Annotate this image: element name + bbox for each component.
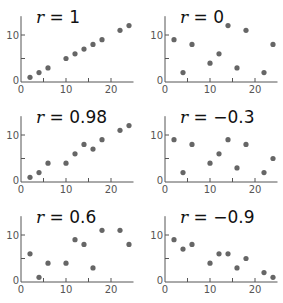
data-point — [90, 265, 95, 270]
y-tick-label: 10 — [6, 230, 19, 241]
correlation-scatter-grid: 01020010r = 101020010r = 001020010r = 0.… — [0, 0, 283, 303]
data-point — [225, 251, 230, 256]
data-point — [90, 147, 95, 152]
data-point — [270, 156, 275, 161]
y-tick-label: 0 — [13, 175, 19, 186]
data-point — [72, 51, 77, 56]
x-tick-label: 10 — [204, 284, 217, 295]
data-point — [63, 56, 68, 61]
y-tick-label: 10 — [6, 30, 19, 41]
correlation-label: r = 0.6 — [36, 207, 96, 227]
x-tick-label: 10 — [204, 84, 217, 95]
data-point — [234, 265, 239, 270]
data-point — [81, 242, 86, 247]
y-tick-label: 0 — [13, 75, 19, 86]
data-point — [234, 165, 239, 170]
data-point — [171, 37, 176, 42]
y-tick-label: 10 — [150, 130, 163, 141]
y-tick-label: 10 — [150, 30, 163, 41]
data-point — [63, 161, 68, 166]
data-point — [225, 23, 230, 28]
data-point — [45, 65, 50, 70]
data-point — [171, 237, 176, 242]
data-point — [36, 275, 41, 280]
data-point — [270, 275, 275, 280]
data-point — [189, 242, 194, 247]
data-point — [81, 142, 86, 147]
data-point — [81, 47, 86, 52]
x-tick-label: 10 — [204, 184, 217, 195]
data-point — [243, 142, 248, 147]
y-tick-label: 0 — [157, 175, 163, 186]
data-point — [189, 142, 194, 147]
correlation-label: r = −0.9 — [180, 207, 254, 227]
correlation-label: r = 0 — [180, 7, 224, 27]
data-point — [117, 28, 122, 33]
correlation-label: r = −0.3 — [180, 107, 254, 127]
x-tick-label: 20 — [105, 284, 118, 295]
data-point — [234, 65, 239, 70]
x-tick-label: 20 — [105, 84, 118, 95]
x-tick-label: 10 — [60, 84, 73, 95]
x-tick-label: 10 — [60, 184, 73, 195]
data-point — [27, 75, 32, 80]
data-point — [216, 151, 221, 156]
data-point — [45, 161, 50, 166]
data-point — [180, 170, 185, 175]
correlation-label: r = 0.98 — [36, 107, 107, 127]
x-tick-label: 10 — [60, 284, 73, 295]
scatter-panel: 01020010r = 0.98 — [6, 107, 133, 195]
data-point — [117, 128, 122, 133]
y-tick-label: 0 — [157, 75, 163, 86]
data-point — [72, 151, 77, 156]
data-point — [126, 23, 131, 28]
data-point — [36, 170, 41, 175]
scatter-panel: 01020010r = 0 — [150, 7, 277, 95]
data-point — [126, 123, 131, 128]
data-point — [207, 161, 212, 166]
data-point — [180, 70, 185, 75]
data-point — [126, 242, 131, 247]
y-tick-label: 0 — [13, 275, 19, 286]
data-point — [207, 261, 212, 266]
y-tick-label: 10 — [150, 230, 163, 241]
x-tick-label: 20 — [249, 84, 262, 95]
data-point — [63, 261, 68, 266]
data-point — [99, 37, 104, 42]
y-tick-label: 0 — [157, 275, 163, 286]
x-tick-label: 20 — [105, 184, 118, 195]
data-point — [207, 61, 212, 66]
data-point — [117, 228, 122, 233]
scatter-panel: 01020010r = −0.3 — [150, 107, 277, 195]
data-point — [216, 251, 221, 256]
scatter-panel: 01020010r = −0.9 — [150, 207, 277, 295]
data-point — [27, 175, 32, 180]
data-point — [261, 70, 266, 75]
data-point — [99, 137, 104, 142]
x-tick-label: 20 — [249, 284, 262, 295]
y-tick-label: 10 — [6, 130, 19, 141]
data-point — [243, 28, 248, 33]
scatter-panel: 01020010r = 0.6 — [6, 207, 133, 295]
data-point — [261, 170, 266, 175]
data-point — [225, 137, 230, 142]
data-point — [171, 137, 176, 142]
data-point — [27, 251, 32, 256]
data-point — [180, 247, 185, 252]
correlation-label: r = 1 — [36, 7, 80, 27]
data-point — [36, 70, 41, 75]
data-point — [72, 237, 77, 242]
data-point — [261, 270, 266, 275]
data-point — [270, 42, 275, 47]
data-point — [216, 51, 221, 56]
scatter-panel: 01020010r = 1 — [6, 7, 133, 95]
data-point — [189, 42, 194, 47]
data-point — [99, 228, 104, 233]
data-point — [90, 42, 95, 47]
x-tick-label: 20 — [249, 184, 262, 195]
data-point — [45, 261, 50, 266]
data-point — [243, 256, 248, 261]
